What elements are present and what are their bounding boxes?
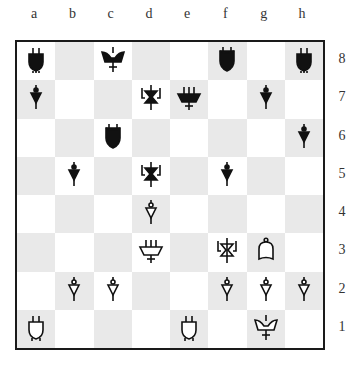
square-a4[interactable] [17, 195, 55, 233]
square-e1[interactable] [170, 310, 208, 348]
square-g3[interactable] [247, 233, 285, 271]
white-pawn-piece-icon[interactable] [98, 274, 128, 308]
white-bell-piece-icon[interactable] [251, 235, 281, 269]
square-e8[interactable] [170, 42, 208, 80]
square-h5[interactable] [285, 157, 323, 195]
file-label-h: h [283, 6, 321, 26]
black-pawn-piece-icon[interactable] [59, 159, 89, 193]
white-pawn-piece-icon[interactable] [136, 197, 166, 231]
square-h7[interactable] [285, 80, 323, 118]
square-c4[interactable] [94, 195, 132, 233]
black-trapezoid-piece-icon[interactable] [174, 82, 204, 116]
square-e5[interactable] [170, 157, 208, 195]
square-h2[interactable] [285, 272, 323, 310]
square-g6[interactable] [247, 119, 285, 157]
rank-label-6: 6 [330, 117, 354, 155]
square-d8[interactable] [132, 42, 170, 80]
white-pawn-piece-icon[interactable] [59, 274, 89, 308]
file-label-a: a [15, 6, 53, 26]
square-g2[interactable] [247, 272, 285, 310]
white-trapezoid-piece-icon[interactable] [136, 235, 166, 269]
square-c6[interactable] [94, 119, 132, 157]
square-c3[interactable] [94, 233, 132, 271]
square-d7[interactable] [132, 80, 170, 118]
square-a3[interactable] [17, 233, 55, 271]
square-a2[interactable] [17, 272, 55, 310]
black-pawn-piece-icon[interactable] [21, 82, 51, 116]
black-pawn-piece-icon[interactable] [212, 159, 242, 193]
square-a1[interactable] [17, 310, 55, 348]
square-b5[interactable] [55, 157, 93, 195]
white-pawn-piece-icon[interactable] [251, 274, 281, 308]
square-b2[interactable] [55, 272, 93, 310]
rank-label-2: 2 [330, 270, 354, 308]
square-d4[interactable] [132, 195, 170, 233]
file-labels: a b c d e f g h [15, 6, 321, 26]
square-a6[interactable] [17, 119, 55, 157]
white-pawn-piece-icon[interactable] [289, 274, 319, 308]
square-h1[interactable] [285, 310, 323, 348]
square-c7[interactable] [94, 80, 132, 118]
file-label-f: f [206, 6, 244, 26]
square-a7[interactable] [17, 80, 55, 118]
square-a5[interactable] [17, 157, 55, 195]
square-d3[interactable] [132, 233, 170, 271]
black-shield-piece-icon[interactable] [212, 44, 242, 78]
square-c8[interactable] [94, 42, 132, 80]
square-f1[interactable] [208, 310, 246, 348]
file-label-b: b [53, 6, 91, 26]
square-g1[interactable] [247, 310, 285, 348]
black-pawn-piece-icon[interactable] [251, 82, 281, 116]
square-f5[interactable] [208, 157, 246, 195]
white-tombstone-piece-icon[interactable] [21, 312, 51, 346]
square-c5[interactable] [94, 157, 132, 195]
square-f2[interactable] [208, 272, 246, 310]
square-h4[interactable] [285, 195, 323, 233]
square-e2[interactable] [170, 272, 208, 310]
square-b1[interactable] [55, 310, 93, 348]
black-pawn-piece-icon[interactable] [289, 121, 319, 155]
rank-label-7: 7 [330, 78, 354, 116]
white-fork-piece-icon[interactable] [251, 312, 281, 346]
square-e6[interactable] [170, 119, 208, 157]
black-hourglass-piece-icon[interactable] [136, 82, 166, 116]
black-fork-piece-icon[interactable] [98, 44, 128, 78]
square-b7[interactable] [55, 80, 93, 118]
square-d1[interactable] [132, 310, 170, 348]
square-b3[interactable] [55, 233, 93, 271]
square-h8[interactable] [285, 42, 323, 80]
square-g8[interactable] [247, 42, 285, 80]
chess-board[interactable] [15, 40, 325, 350]
square-a8[interactable] [17, 42, 55, 80]
black-shield-piece-icon[interactable] [98, 121, 128, 155]
square-g4[interactable] [247, 195, 285, 233]
square-h3[interactable] [285, 233, 323, 271]
square-f6[interactable] [208, 119, 246, 157]
square-b8[interactable] [55, 42, 93, 80]
square-c1[interactable] [94, 310, 132, 348]
square-c2[interactable] [94, 272, 132, 310]
square-g7[interactable] [247, 80, 285, 118]
square-f7[interactable] [208, 80, 246, 118]
square-e7[interactable] [170, 80, 208, 118]
rank-label-4: 4 [330, 193, 354, 231]
black-tombstone-piece-icon[interactable] [289, 44, 319, 78]
black-hourglass-piece-icon[interactable] [136, 159, 166, 193]
square-d5[interactable] [132, 157, 170, 195]
rank-label-3: 3 [330, 231, 354, 269]
square-g5[interactable] [247, 157, 285, 195]
square-d2[interactable] [132, 272, 170, 310]
square-f4[interactable] [208, 195, 246, 233]
square-f8[interactable] [208, 42, 246, 80]
black-tombstone-piece-icon[interactable] [21, 44, 51, 78]
square-b4[interactable] [55, 195, 93, 233]
square-h6[interactable] [285, 119, 323, 157]
square-d6[interactable] [132, 119, 170, 157]
white-tombstone-piece-icon[interactable] [174, 312, 204, 346]
square-e4[interactable] [170, 195, 208, 233]
white-pawn-piece-icon[interactable] [212, 274, 242, 308]
square-b6[interactable] [55, 119, 93, 157]
square-f3[interactable] [208, 233, 246, 271]
white-hourglass-piece-icon[interactable] [212, 235, 242, 269]
square-e3[interactable] [170, 233, 208, 271]
